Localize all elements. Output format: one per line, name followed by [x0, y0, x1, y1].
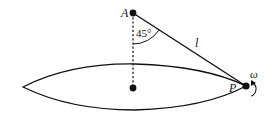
pivot-point-a — [130, 10, 137, 17]
string-line — [133, 13, 246, 86]
label-length: l — [195, 36, 199, 50]
label-angle: 45° — [136, 27, 151, 39]
bob-point-p — [242, 82, 249, 89]
conical-pendulum-diagram: A 45° l P ω — [0, 0, 274, 114]
center-point — [130, 85, 137, 92]
label-p: P — [228, 81, 237, 95]
label-omega: ω — [250, 68, 258, 80]
label-a: A — [120, 6, 129, 20]
